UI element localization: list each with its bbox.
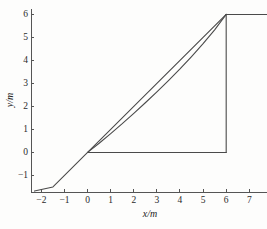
data-series-group bbox=[34, 14, 267, 191]
chart-figure: −2−101234567 −10123456 x/m y/m bbox=[0, 0, 267, 229]
y-tick-label: 5 bbox=[18, 32, 28, 42]
x-tick-label: 5 bbox=[201, 195, 206, 205]
x-tick-label: 1 bbox=[108, 195, 113, 205]
x-tick-label: 3 bbox=[155, 195, 160, 205]
y-tick-label: 4 bbox=[18, 55, 28, 65]
y-axis-title: y/m bbox=[4, 93, 15, 107]
x-tick-label: 0 bbox=[85, 195, 90, 205]
x-axis-title: x/m bbox=[143, 208, 157, 219]
y-tick-label: 6 bbox=[18, 9, 28, 19]
axes-group bbox=[31, 9, 267, 192]
y-tick-label: 3 bbox=[18, 78, 28, 88]
x-tick-label: 2 bbox=[131, 195, 136, 205]
x-tick-label: −2 bbox=[36, 195, 46, 205]
x-tick-label: 7 bbox=[247, 195, 252, 205]
y-tick-label: 2 bbox=[18, 101, 28, 111]
x-tick-label: 6 bbox=[224, 195, 229, 205]
y-tick-label: 1 bbox=[18, 124, 28, 134]
y-tick-label: −1 bbox=[18, 170, 28, 180]
axis-ticks bbox=[31, 14, 249, 192]
series-straight-line bbox=[34, 14, 226, 191]
x-tick-label: −1 bbox=[59, 195, 69, 205]
y-tick-label: 0 bbox=[18, 147, 28, 157]
x-tick-label: 4 bbox=[178, 195, 183, 205]
